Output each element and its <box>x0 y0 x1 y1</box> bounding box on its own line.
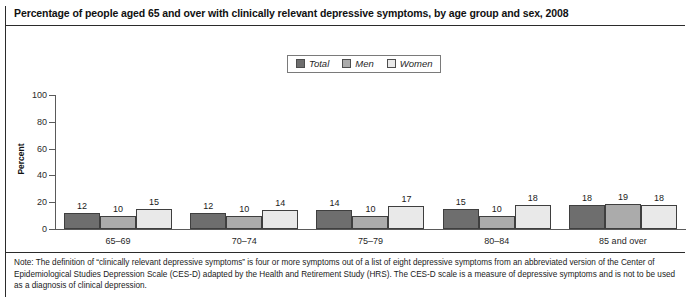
note-divider <box>5 252 685 253</box>
bar-rect[interactable] <box>262 210 298 229</box>
legend-item-men[interactable]: Men <box>342 59 373 69</box>
bar-total[interactable]: 14 <box>316 95 352 229</box>
y-tick-label: 20 <box>5 197 47 207</box>
bar-rect[interactable] <box>641 205 677 229</box>
bar-men[interactable]: 10 <box>226 95 262 229</box>
bar-total[interactable]: 15 <box>443 95 479 229</box>
bar-value-label: 12 <box>190 202 226 211</box>
bar-rect[interactable] <box>136 209 172 229</box>
bar-value-label: 14 <box>262 199 298 208</box>
legend-label: Total <box>309 59 329 69</box>
bar-value-label: 15 <box>443 198 479 207</box>
bar-women[interactable]: 15 <box>136 95 172 229</box>
bar-value-label: 19 <box>605 193 641 202</box>
x-axis-line <box>55 229 686 230</box>
bar-men[interactable]: 10 <box>479 95 515 229</box>
x-axis-category-label: 75–79 <box>307 236 433 246</box>
bar-group-bars: 151018 <box>434 95 560 229</box>
x-axis-category-label: 85 and over <box>560 236 686 246</box>
chart-title: Percentage of people aged 65 and over wi… <box>14 7 674 19</box>
legend-swatch-icon <box>296 59 305 68</box>
y-tick-label: 0 <box>5 224 47 234</box>
bar-value-label: 10 <box>479 205 515 214</box>
chart-note: Note: The definition of “clinically rele… <box>14 257 682 292</box>
legend-label: Men <box>355 59 373 69</box>
chart-legend: TotalMenWomen <box>287 55 441 73</box>
bar-value-label: 14 <box>316 199 352 208</box>
bar-group-bars: 121014 <box>181 95 307 229</box>
bar-women[interactable]: 18 <box>641 95 677 229</box>
bar-women[interactable]: 18 <box>515 95 551 229</box>
bar-value-label: 18 <box>515 194 551 203</box>
bar-rect[interactable] <box>515 205 551 229</box>
bar-rect[interactable] <box>605 204 641 229</box>
bar-value-label: 10 <box>100 205 136 214</box>
y-tick-label: 80 <box>5 117 47 127</box>
bar-rect[interactable] <box>569 205 605 229</box>
bar-group: 141017 <box>307 95 433 229</box>
bar-group: 151018 <box>434 95 560 229</box>
bar-group: 181918 <box>560 95 686 229</box>
legend-item-women[interactable]: Women <box>387 59 433 69</box>
bar-value-label: 17 <box>388 195 424 204</box>
legend-swatch-icon <box>342 59 351 68</box>
y-tick-mark <box>49 229 55 230</box>
bar-value-label: 12 <box>64 202 100 211</box>
x-axis-category-label: 70–74 <box>181 236 307 246</box>
bar-total[interactable]: 12 <box>190 95 226 229</box>
bar-total[interactable]: 18 <box>569 95 605 229</box>
bar-group-bars: 121015 <box>55 95 181 229</box>
bar-men[interactable]: 19 <box>605 95 641 229</box>
x-axis-category-label: 65–69 <box>55 236 181 246</box>
figure-container: Percentage of people aged 65 and over wi… <box>0 0 689 302</box>
bar-rect[interactable] <box>64 213 100 229</box>
bar-value-label: 10 <box>352 205 388 214</box>
bar-rect[interactable] <box>443 209 479 229</box>
bar-rect[interactable] <box>316 210 352 229</box>
x-axis-category-label: 80–84 <box>434 236 560 246</box>
bar-group: 121015 <box>55 95 181 229</box>
legend-item-total[interactable]: Total <box>296 59 329 69</box>
bar-rect[interactable] <box>479 216 515 229</box>
legend-label: Women <box>400 59 433 69</box>
bar-men[interactable]: 10 <box>100 95 136 229</box>
bar-rect[interactable] <box>100 216 136 229</box>
bar-value-label: 15 <box>136 198 172 207</box>
bar-rect[interactable] <box>226 216 262 229</box>
bar-total[interactable]: 12 <box>64 95 100 229</box>
y-tick-label: 100 <box>5 90 47 100</box>
bar-value-label: 10 <box>226 205 262 214</box>
bar-value-label: 18 <box>569 194 605 203</box>
bar-group-bars: 181918 <box>560 95 686 229</box>
bar-women[interactable]: 17 <box>388 95 424 229</box>
title-divider <box>5 25 685 26</box>
y-tick-label: 40 <box>5 170 47 180</box>
bar-group-bars: 141017 <box>307 95 433 229</box>
bar-men[interactable]: 10 <box>352 95 388 229</box>
bar-value-label: 18 <box>641 194 677 203</box>
bar-women[interactable]: 14 <box>262 95 298 229</box>
bar-rect[interactable] <box>352 216 388 229</box>
bar-group: 121014 <box>181 95 307 229</box>
bar-rect[interactable] <box>190 213 226 229</box>
y-tick-label: 60 <box>5 144 47 154</box>
bar-rect[interactable] <box>388 206 424 229</box>
legend-swatch-icon <box>387 59 396 68</box>
